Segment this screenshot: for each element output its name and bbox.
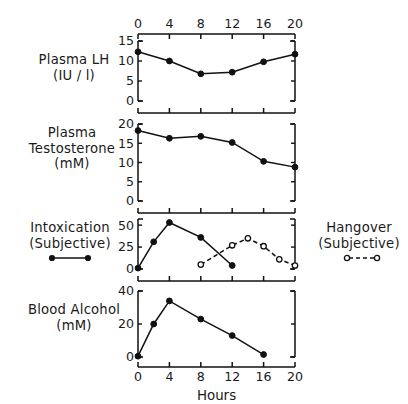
data-point-marker [261, 158, 267, 164]
y-axis-tick-label: 15 [118, 33, 134, 48]
y-axis-tick-label: 0 [126, 193, 134, 208]
data-point-marker [261, 352, 267, 358]
x-axis-title: Hours [197, 388, 236, 403]
data-point-marker [229, 333, 235, 339]
y-axis-tick-label: 50 [118, 218, 134, 233]
data-point-marker [292, 164, 298, 170]
y-axis-tick-label: 10 [118, 155, 134, 170]
y-axis-tick-label: 25 [118, 239, 134, 254]
series-line [138, 301, 264, 356]
y-axis-tick-label: 40 [118, 283, 134, 298]
data-point-marker [245, 236, 250, 241]
y-axis-tick-label: 0 [126, 261, 134, 276]
series-line [138, 131, 295, 168]
x-axis-tick-label: 0 [134, 369, 142, 384]
data-point-marker [198, 316, 204, 322]
x-axis-tick-label: 16 [256, 369, 272, 384]
y-axis-tick-label: 5 [126, 174, 134, 189]
y-axis-tick-label: 20 [118, 316, 134, 331]
figure-container: Plasma LH (IU / l) Plasma Testosterone (… [0, 0, 408, 404]
series-line [138, 52, 295, 74]
top-axis-tick-label: 20 [287, 16, 303, 31]
data-point-marker [151, 239, 157, 245]
top-axis-tick-label: 4 [165, 16, 173, 31]
top-axis-tick-label: 8 [197, 16, 205, 31]
data-point-marker [135, 265, 141, 271]
top-axis-tick-label: 16 [256, 16, 272, 31]
y-axis-tick-label: 5 [126, 73, 134, 88]
panel-3: 02550 [118, 218, 298, 281]
x-axis-tick-label: 4 [165, 369, 173, 384]
panel-2: 05101520 [118, 116, 298, 213]
y-axis-tick-label: 20 [118, 116, 134, 131]
top-axis-tick-label: 0 [134, 16, 142, 31]
data-point-marker [135, 49, 141, 55]
data-point-marker [198, 235, 204, 241]
data-point-marker [198, 133, 204, 139]
y-axis-tick-label: 10 [118, 53, 134, 68]
data-point-marker [261, 59, 267, 65]
data-point-marker [229, 263, 235, 269]
data-point-marker [261, 243, 266, 248]
y-axis-tick-label: 0 [126, 93, 134, 108]
data-point-marker [198, 71, 204, 77]
top-axis-tick-label: 12 [224, 16, 240, 31]
y-axis-tick-label: 0 [126, 349, 134, 364]
data-point-marker [167, 298, 173, 304]
panel-1: 051015 [118, 33, 298, 113]
data-point-marker [277, 257, 282, 262]
y-axis-tick-label: 15 [118, 136, 134, 151]
data-point-marker [135, 353, 141, 359]
series-line [138, 223, 232, 269]
chart-svg: 0481216200510150510152002550020400481216… [0, 0, 408, 404]
panel-4: 02040 [118, 283, 295, 364]
x-axis-tick-label: 8 [197, 369, 205, 384]
data-point-marker [292, 51, 298, 57]
data-point-marker [292, 263, 297, 268]
data-point-marker [198, 262, 203, 267]
x-axis-tick-label: 12 [224, 369, 240, 384]
data-point-marker [229, 140, 235, 146]
x-axis-tick-label: 20 [287, 369, 303, 384]
data-point-marker [167, 58, 173, 64]
data-point-marker [135, 128, 141, 134]
data-point-marker [230, 243, 235, 248]
data-point-marker [167, 135, 173, 141]
data-point-marker [167, 220, 173, 226]
data-point-marker [151, 321, 157, 327]
data-point-marker [229, 69, 235, 75]
